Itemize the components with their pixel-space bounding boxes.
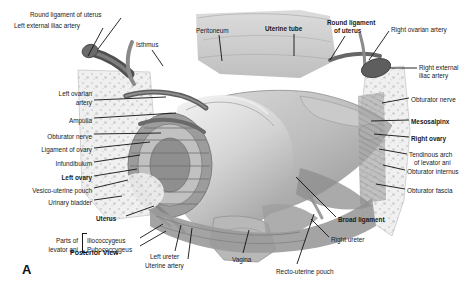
label-parts-of-levator-ani-1: Parts of: [0, 237, 78, 244]
label-uterine-artery: Uterine artery: [145, 262, 184, 269]
label-left-ovarian-artery-1: Left ovarian: [0, 90, 92, 97]
label-vesico-uterine-pouch: Vesico-uterine pouch: [0, 187, 92, 194]
label-tendinous-arch-1: Tendinous arch: [409, 151, 452, 158]
label-round-ligament-of-uterus-right-1: Round ligament: [327, 19, 375, 26]
label-round-ligament-of-uterus-left: Round ligament of uterus: [30, 11, 101, 18]
label-obturator-internus: Obturator internus: [407, 168, 459, 175]
label-left-ovarian-artery-2: artery: [0, 99, 92, 106]
label-obturator-nerve-right: Obturator nerve: [411, 96, 456, 103]
label-right-external-iliac-artery-2: iliac artery: [419, 72, 448, 79]
figure-canvas: Round ligament of uterusLeft external il…: [0, 0, 476, 289]
label-obturator-nerve-left: Obturator nerve: [0, 133, 92, 140]
view-caption: Posterior View: [70, 249, 119, 256]
label-right-external-iliac-artery-1: Right external: [419, 64, 458, 71]
label-iliococcygeus: Iliococcygeus: [87, 237, 125, 244]
label-tendinous-arch-2: of levator ani: [414, 159, 451, 166]
label-parts-of-levator-ani-2: levator ani: [0, 246, 78, 253]
label-right-ovary: Right ovary: [411, 135, 446, 142]
label-obturator-fascia: Obturator fascia: [407, 187, 452, 194]
label-ampulla: Ampulla: [0, 117, 92, 124]
label-right-ovarian-artery: Right ovarian artery: [391, 26, 447, 33]
label-infundibulum: Infundibulum: [0, 160, 92, 167]
label-urinary-bladder: Urinary bladder: [0, 199, 92, 206]
label-mesosalpinx: Mesosalpinx: [411, 118, 449, 125]
label-left-ureter: Left ureter: [150, 253, 179, 260]
label-broad-ligament: Broad ligament: [338, 216, 385, 223]
label-peritoneum: Peritoneum: [196, 27, 229, 34]
label-uterus: Uterus: [96, 215, 116, 222]
label-left-external-iliac-artery: Left external iliac artery: [14, 22, 80, 29]
label-uterine-tube: Uterine tube: [265, 25, 302, 32]
label-recto-uterine-pouch: Recto-uterine pouch: [276, 268, 334, 275]
label-ligament-of-ovary: Ligament of ovary: [0, 146, 92, 153]
panel-letter: A: [22, 262, 31, 277]
label-left-ovary: Left ovary: [0, 174, 92, 181]
label-isthmus: Isthmus: [136, 41, 158, 48]
label-vagina: Vagina: [232, 256, 251, 263]
label-round-ligament-of-uterus-right-2: of uterus: [334, 27, 361, 34]
label-right-ureter: Right ureter: [331, 236, 364, 243]
